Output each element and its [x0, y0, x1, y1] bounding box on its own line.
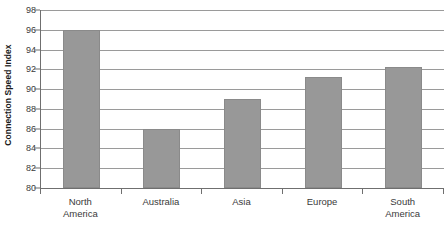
x-axis-tick-label: Asia — [201, 196, 282, 208]
y-axis-tick-mark — [34, 49, 40, 50]
x-axis-tick-label: NorthAmerica — [40, 196, 121, 219]
x-axis-tick-mark — [201, 189, 202, 194]
x-axis-tick-label: Australia — [121, 196, 202, 208]
x-axis-tick-label-line: Asia — [201, 196, 282, 208]
x-axis-tick-label-line: Europe — [282, 196, 363, 208]
x-axis-tick-marks — [40, 189, 444, 195]
x-axis-tick-mark — [443, 189, 444, 194]
y-axis-title: Connection Speed Index — [0, 0, 16, 190]
x-axis-tick-label: Europe — [282, 196, 363, 208]
bar — [143, 129, 180, 188]
x-axis-tick-mark — [282, 189, 283, 194]
bar — [385, 67, 422, 188]
y-axis-tick-mark — [34, 108, 40, 109]
bar — [63, 30, 100, 188]
bar — [224, 99, 261, 188]
x-axis-tick-mark — [362, 189, 363, 194]
y-axis-tick-mark — [34, 69, 40, 70]
y-axis-tick-mark — [34, 168, 40, 169]
plot-area — [40, 10, 444, 189]
y-axis-tick-mark — [34, 89, 40, 90]
x-axis-tick-label: SouthAmerica — [362, 196, 443, 219]
x-axis-tick-label-line: Australia — [121, 196, 202, 208]
x-axis-tick-mark — [121, 189, 122, 194]
bar-chart: Connection Speed Index 98969492908886848… — [0, 0, 445, 226]
y-axis-tick-mark — [34, 10, 40, 11]
y-axis-title-text: Connection Speed Index — [3, 44, 13, 145]
y-axis-tick-mark — [34, 188, 40, 189]
x-axis-tick-mark — [40, 189, 41, 194]
x-axis-tick-label-line: South — [362, 196, 443, 208]
x-axis-tick-label-line: America — [40, 208, 121, 220]
x-axis-tick-labels: NorthAmericaAustraliaAsiaEuropeSouthAmer… — [40, 196, 443, 226]
bars-group — [41, 10, 444, 188]
y-axis-tick-mark — [34, 29, 40, 30]
y-axis-tick-mark — [34, 128, 40, 129]
x-axis-tick-label-line: North — [40, 196, 121, 208]
bar — [305, 77, 342, 188]
x-axis-tick-label-line: America — [362, 208, 443, 220]
y-axis-tick-mark — [34, 148, 40, 149]
